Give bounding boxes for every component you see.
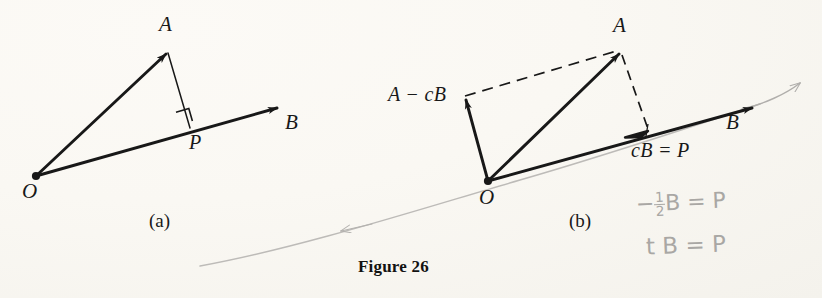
figure-page: A O P B (a) A O A − cB cB = P B (b) Figu…	[0, 0, 822, 298]
pencil-eq1-denominator: 2	[654, 205, 665, 218]
label-point-A-panel-a: A	[159, 14, 172, 35]
label-vector-B-panel-a: B	[285, 112, 298, 133]
label-point-A-panel-b: A	[613, 15, 626, 36]
dashed-AmcB-to-A	[465, 50, 620, 96]
label-point-P-panel-a: P	[189, 132, 201, 152]
segment-AP-a	[168, 53, 190, 128]
pencil-arrow-upper-right	[742, 83, 800, 109]
label-vector-A-minus-cB: A − cB	[388, 84, 446, 104]
label-cB-equals-P: cB = P	[631, 140, 690, 160]
label-point-O-panel-a: O	[22, 181, 37, 202]
panel-label-b: (b)	[569, 211, 591, 230]
pencil-eq1-lead: −	[635, 191, 655, 217]
pencil-eq1-tail: B = P	[665, 188, 727, 216]
panel-label-a: (a)	[149, 211, 170, 230]
figure-caption: Figure 26	[358, 258, 429, 275]
vector-A-minus-cB	[466, 100, 488, 181]
panel-b-drawing	[465, 50, 752, 185]
right-angle-marker-a	[176, 109, 192, 121]
panel-a-drawing	[32, 53, 277, 180]
pencil-equation-1: −12B = P	[635, 188, 726, 219]
point-O-b	[484, 177, 492, 185]
pencil-equation-2: t B = P	[646, 233, 727, 259]
label-vector-B-panel-b: B	[726, 112, 739, 133]
dashed-A-to-cB	[622, 55, 648, 129]
label-point-O-panel-b: O	[479, 187, 494, 208]
